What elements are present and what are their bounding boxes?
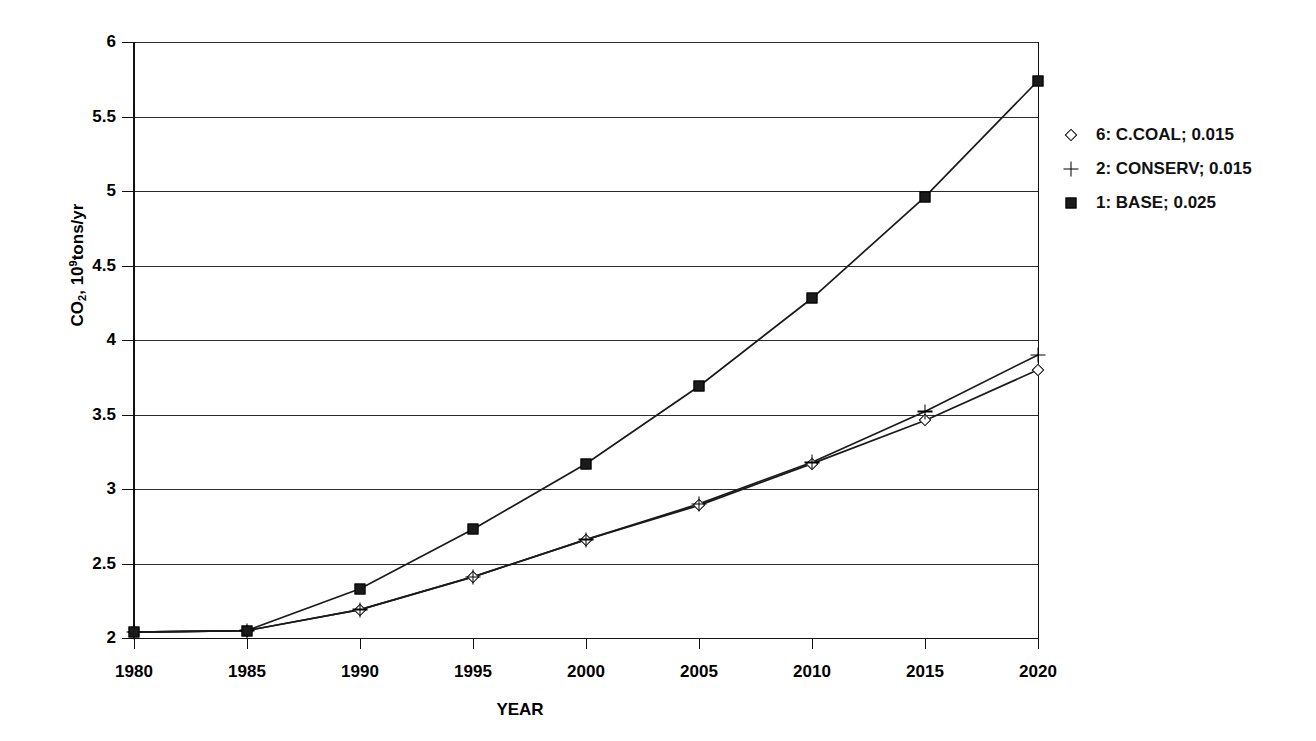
x-axis-tick-label: 1990 bbox=[341, 662, 379, 682]
x-axis-tick bbox=[699, 638, 700, 649]
x-axis-tick bbox=[1038, 638, 1039, 649]
y-axis-title-suffix: tons/yr bbox=[68, 204, 87, 261]
legend-marker bbox=[1062, 159, 1096, 179]
data-point-marker bbox=[805, 455, 820, 470]
series-lines-group bbox=[134, 42, 1038, 638]
legend-marker bbox=[1062, 193, 1096, 213]
legend-item-label: 1: BASE; 0.025 bbox=[1096, 193, 1216, 213]
y-axis-title-superscript: 9 bbox=[67, 260, 79, 266]
y-axis-tick-label: 4 bbox=[107, 330, 116, 350]
legend-item: 6: C.COAL; 0.015 bbox=[1062, 118, 1302, 152]
x-axis-tick bbox=[473, 638, 474, 649]
data-point-marker bbox=[807, 293, 818, 304]
data-point-marker bbox=[1033, 75, 1044, 86]
legend-marker-glyph bbox=[1066, 198, 1077, 209]
x-axis-tick-label: 1980 bbox=[115, 662, 153, 682]
x-axis-tick-label: 2000 bbox=[567, 662, 605, 682]
x-axis-tick bbox=[586, 638, 587, 649]
legend-item: 2: CONSERV; 0.015 bbox=[1062, 152, 1302, 186]
data-point-marker bbox=[353, 602, 368, 617]
y-axis-title-prefix: CO bbox=[68, 301, 87, 327]
x-axis-tick-label: 2010 bbox=[793, 662, 831, 682]
x-axis-tick-label: 2020 bbox=[1019, 662, 1057, 682]
x-axis-tick-label: 1985 bbox=[228, 662, 266, 682]
x-axis-tick bbox=[812, 638, 813, 649]
y-axis-tick-label: 2.5 bbox=[92, 554, 116, 574]
data-point-marker bbox=[692, 496, 707, 511]
data-point-marker bbox=[581, 458, 592, 469]
series-line bbox=[134, 370, 1038, 632]
legend-marker-glyph bbox=[1065, 129, 1078, 142]
data-point-marker bbox=[579, 532, 594, 547]
x-axis-tick bbox=[247, 638, 248, 649]
plot-area: 22.533.544.555.56 1980198519901995200020… bbox=[134, 42, 1038, 638]
legend-marker-glyph bbox=[1064, 162, 1079, 177]
legend-item: 1: BASE; 0.025 bbox=[1062, 186, 1302, 220]
x-axis-tick bbox=[360, 638, 361, 649]
y-axis-title-text: CO2, 109tons/yr bbox=[67, 204, 88, 327]
y-axis-tick-label: 5 bbox=[107, 181, 116, 201]
x-axis-tick-label: 2005 bbox=[680, 662, 718, 682]
y-axis-tick-label: 3.5 bbox=[92, 405, 116, 425]
legend-item-label: 6: C.COAL; 0.015 bbox=[1096, 125, 1234, 145]
x-axis-tick bbox=[134, 638, 135, 649]
data-point-marker bbox=[129, 627, 140, 638]
x-axis-tick-label: 2015 bbox=[906, 662, 944, 682]
x-axis-title: YEAR bbox=[0, 700, 1040, 720]
y-axis-tick-label: 4.5 bbox=[92, 256, 116, 276]
data-point-marker bbox=[355, 583, 366, 594]
data-point-marker bbox=[468, 524, 479, 535]
y-axis-tick-label: 2 bbox=[107, 628, 116, 648]
x-axis-tick-label: 1995 bbox=[454, 662, 492, 682]
y-axis-tick-label: 3 bbox=[107, 479, 116, 499]
data-point-marker bbox=[920, 191, 931, 202]
x-axis-tick bbox=[925, 638, 926, 649]
legend-item-label: 2: CONSERV; 0.015 bbox=[1096, 159, 1252, 179]
co2-emissions-line-chart: CO2, 109tons/yr YEAR 22.533.544.555.56 1… bbox=[0, 0, 1316, 741]
data-point-marker bbox=[242, 625, 253, 636]
y-axis-title: CO2, 109tons/yr bbox=[62, 150, 92, 380]
data-point-marker bbox=[694, 381, 705, 392]
data-point-marker bbox=[918, 404, 933, 419]
y-axis-title-subscript: 2 bbox=[76, 295, 88, 301]
y-axis-tick-label: 5.5 bbox=[92, 107, 116, 127]
data-point-marker bbox=[1031, 347, 1046, 362]
series-line bbox=[134, 355, 1038, 632]
data-point-marker bbox=[466, 569, 481, 584]
series-line bbox=[134, 81, 1038, 632]
y-axis-tick-label: 6 bbox=[107, 32, 116, 52]
legend: 6: C.COAL; 0.0152: CONSERV; 0.0151: BASE… bbox=[1062, 118, 1302, 220]
y-axis-title-mid: , 10 bbox=[68, 266, 87, 294]
legend-marker bbox=[1062, 125, 1096, 145]
